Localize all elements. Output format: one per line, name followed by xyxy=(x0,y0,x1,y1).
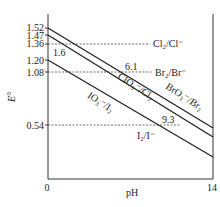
io3-i2-line xyxy=(48,60,213,157)
potential-ph-chart: 1.52 1.47 1.36 1.20 1.08 0.54 E° 0 14 pH… xyxy=(0,0,220,207)
clo3-cl2-label: ClO₃⁻/Cl₂ xyxy=(116,70,156,101)
ytick-label-136: 1.36 xyxy=(27,38,45,49)
cl2-cl-label: Cl₂/Cl⁻ xyxy=(153,38,183,49)
annotation-1-6: 1.6 xyxy=(53,47,66,58)
y-axis-title: E° xyxy=(6,92,17,103)
ytick-label-120: 1.20 xyxy=(27,55,45,66)
xtick-label-0: 0 xyxy=(45,182,50,193)
x-axis-title: pH xyxy=(126,187,138,198)
br2-br-label: Br₂/Br⁻ xyxy=(155,67,186,78)
bro3-br2-label: BrO₃⁻/Br₂ xyxy=(164,80,205,112)
annotation-6-1: 6.1 xyxy=(125,61,138,72)
io3-i2-label: IO₃⁻/I₂ xyxy=(86,89,116,114)
ytick-label-054: 0.54 xyxy=(27,120,45,131)
ytick-label-108: 1.08 xyxy=(27,67,45,78)
annotation-9-3: 9.3 xyxy=(162,114,175,125)
xtick-label-14: 14 xyxy=(207,182,217,193)
i2-i-label: I₂/I⁻ xyxy=(137,130,155,141)
